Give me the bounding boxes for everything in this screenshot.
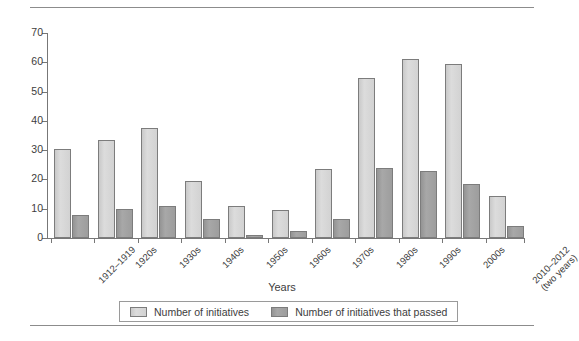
legend-label: Number of initiatives that passed <box>295 306 447 318</box>
bar-group <box>489 33 524 238</box>
bar-initiatives <box>141 128 158 238</box>
bar-initiatives-passed <box>203 219 220 238</box>
bar-initiatives <box>445 64 462 238</box>
x-category-label: 1920s <box>133 244 159 270</box>
bar-initiatives <box>98 140 115 238</box>
x-tick-mark <box>94 239 95 243</box>
y-tick-label: 50 <box>31 85 43 98</box>
plot-area: 010203040506070 <box>47 33 525 239</box>
x-tick-mark <box>268 239 269 243</box>
bar-group <box>358 33 393 238</box>
x-tick-mark <box>399 239 400 243</box>
x-axis-title: Years <box>0 281 564 293</box>
bar-initiatives-passed <box>72 215 89 238</box>
bar-initiatives <box>402 59 419 238</box>
dark-gray-swatch-icon <box>271 307 288 317</box>
bar-initiatives <box>358 78 375 238</box>
x-category-label: 2000s <box>480 244 506 270</box>
x-category-label: 1960s <box>307 244 333 270</box>
x-tick-mark <box>181 239 182 243</box>
y-tick-label: 0 <box>37 231 43 244</box>
bar-initiatives <box>228 206 245 238</box>
x-tick-mark <box>524 239 525 243</box>
bar-initiatives <box>272 210 289 238</box>
bar-group <box>185 33 220 238</box>
bar-initiatives-passed <box>507 226 524 238</box>
x-category-label: 1990s <box>437 244 463 270</box>
x-tick-mark <box>225 239 226 243</box>
bar-initiatives-passed <box>420 171 437 238</box>
bar-group <box>445 33 480 238</box>
legend-item-initiatives-passed: Number of initiatives that passed <box>271 306 447 318</box>
bar-initiatives-passed <box>463 184 480 238</box>
chart-legend: Number of initiatives Number of initiati… <box>119 301 458 322</box>
bar-initiatives <box>489 196 506 238</box>
y-tick-label: 60 <box>31 55 43 68</box>
x-category-label: 1940s <box>220 244 246 270</box>
bar-group <box>141 33 176 238</box>
light-gray-swatch-icon <box>130 307 147 317</box>
bar-group <box>54 33 89 238</box>
bar-initiatives-passed <box>333 219 350 238</box>
bar-group <box>315 33 350 238</box>
x-category-label: 1930s <box>176 244 202 270</box>
x-category-label: 1912–1919 <box>96 244 137 285</box>
y-axis-line <box>47 33 48 239</box>
bar-initiatives <box>54 149 71 238</box>
bar-initiatives-passed <box>290 231 307 238</box>
x-tick-mark <box>355 239 356 243</box>
bar-initiatives <box>315 169 332 238</box>
x-tick-mark <box>312 239 313 243</box>
bar-group <box>98 33 133 238</box>
bar-initiatives-passed <box>159 206 176 238</box>
bar-initiatives-passed <box>376 168 393 238</box>
x-tick-mark <box>486 239 487 243</box>
y-tick-label: 40 <box>31 114 43 127</box>
x-category-label: 1980s <box>393 244 419 270</box>
bar-initiatives <box>185 181 202 238</box>
x-category-label: 1950s <box>263 244 289 270</box>
legend-label: Number of initiatives <box>154 306 249 318</box>
y-tick-label: 20 <box>31 172 43 185</box>
bar-initiatives-passed <box>246 235 263 238</box>
top-divider-rule <box>30 7 534 8</box>
bar-group <box>402 33 437 238</box>
x-tick-mark <box>138 239 139 243</box>
bar-initiatives-passed <box>116 209 133 238</box>
y-tick-label: 10 <box>31 202 43 215</box>
bottom-divider-rule <box>30 325 534 326</box>
x-axis-line <box>47 238 525 239</box>
x-tick-mark <box>51 239 52 243</box>
x-tick-mark <box>442 239 443 243</box>
bar-group <box>272 33 307 238</box>
x-category-label: 1970s <box>350 244 376 270</box>
legend-item-initiatives: Number of initiatives <box>130 306 249 318</box>
y-tick-label: 70 <box>31 26 43 39</box>
y-tick-label: 30 <box>31 143 43 156</box>
bar-group <box>228 33 263 238</box>
